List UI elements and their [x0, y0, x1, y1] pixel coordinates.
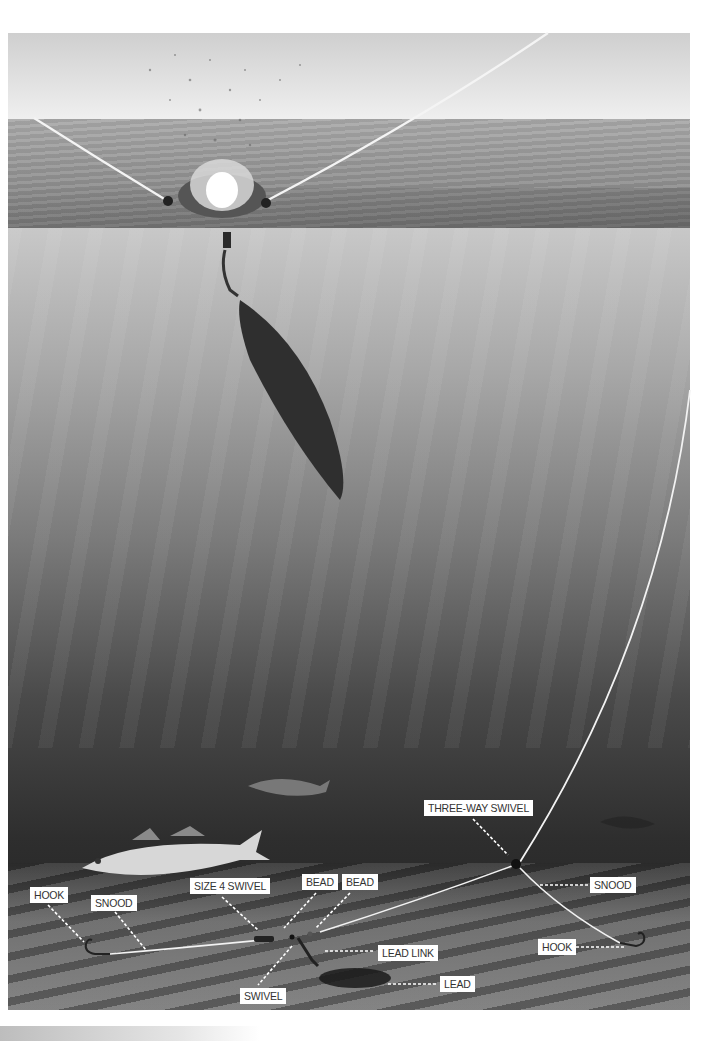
label-lead-link: LEAD LINK	[378, 945, 438, 961]
label-size-4-swivel: SIZE 4 SWIVEL	[190, 878, 270, 894]
label-hook-left: HOOK	[30, 887, 68, 903]
snood-line-left	[110, 940, 262, 954]
water-droplets	[149, 54, 301, 146]
hook-right-icon	[620, 933, 644, 946]
label-bead-2: BEAD	[342, 874, 378, 890]
label-hook-right: HOOK	[538, 939, 576, 955]
label-snood-left: SNOOD	[91, 895, 137, 911]
main-line	[520, 390, 690, 862]
bead-icon	[290, 935, 295, 940]
lead-weight-icon	[223, 232, 343, 500]
ray-fish-icon	[600, 816, 655, 828]
three-way-swivel-icon	[511, 859, 521, 869]
label-swivel: SWIVEL	[240, 988, 286, 1004]
size-4-swivel-icon	[254, 936, 274, 942]
fish-background-icon	[248, 779, 330, 796]
fishing-line-left-surface	[34, 118, 166, 200]
lead-icon	[319, 968, 391, 988]
fish-pollack-icon	[82, 826, 270, 875]
bead-icon	[308, 932, 313, 937]
label-snood-right: SNOOD	[590, 877, 636, 893]
hook-left-icon	[86, 940, 110, 955]
splash-icon	[163, 159, 271, 218]
fishing-line-right-surface	[268, 33, 548, 200]
label-three-way-swivel: THREE-WAY SWIVEL	[424, 800, 533, 816]
label-lead: LEAD	[440, 976, 475, 992]
lead-link-icon	[298, 938, 318, 966]
bottom-gray-strip	[0, 1026, 260, 1041]
label-bead-1: BEAD	[302, 874, 338, 890]
